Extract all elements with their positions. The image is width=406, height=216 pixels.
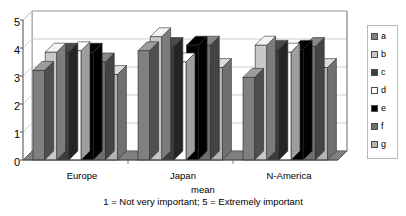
legend-item-f[interactable]: f	[371, 120, 384, 133]
legend-label-e: e	[381, 104, 386, 113]
y-tick-label-4: 4	[6, 45, 20, 56]
legend-item-d[interactable]: d	[371, 84, 386, 97]
legend-item-b[interactable]: b	[371, 48, 386, 61]
plot-area: 5 4 3 2 1 0 Europe Japan N-America	[0, 0, 360, 182]
legend-item-a[interactable]: a	[371, 30, 386, 43]
legend-label-d: d	[381, 86, 386, 95]
y-tick-label-5: 5	[6, 17, 20, 28]
category-label-europe: Europe	[42, 171, 122, 181]
y-tick-label-3: 3	[6, 73, 20, 84]
legend-swatch-f-icon	[371, 123, 378, 130]
legend-swatch-c-icon	[371, 69, 378, 76]
caption-line-1: mean	[0, 184, 406, 196]
legend-item-g[interactable]: g	[371, 138, 386, 151]
bar-chart: 5 4 3 2 1 0 Europe Japan N-America a b c…	[0, 0, 406, 216]
legend-swatch-d-icon	[371, 87, 378, 94]
y-tick-label-2: 2	[6, 101, 20, 112]
legend-swatch-e-icon	[371, 105, 378, 112]
legend-swatch-b-icon	[371, 51, 378, 58]
legend-item-c[interactable]: c	[371, 66, 386, 79]
caption-line-2: 1 = Not very important; 5 = Extremely im…	[0, 196, 406, 208]
legend-label-b: b	[381, 50, 386, 59]
chart-caption: mean 1 = Not very important; 5 = Extreme…	[0, 184, 406, 208]
legend-item-e[interactable]: e	[371, 102, 386, 115]
legend-label-g: g	[381, 140, 386, 149]
legend-swatch-a-icon	[371, 33, 378, 40]
y-tick-label-1: 1	[6, 129, 20, 140]
category-label-n-america: N-America	[244, 171, 334, 181]
plot-svg	[0, 0, 360, 182]
category-label-japan: Japan	[143, 171, 223, 181]
legend-swatch-g-icon	[371, 141, 378, 148]
legend-label-c: c	[381, 68, 386, 77]
legend-label-a: a	[381, 32, 386, 41]
y-tick-label-0: 0	[6, 157, 20, 168]
legend-label-f: f	[381, 122, 384, 131]
legend: a b c d e f g	[367, 25, 398, 159]
